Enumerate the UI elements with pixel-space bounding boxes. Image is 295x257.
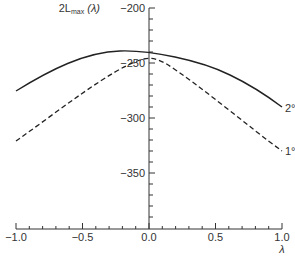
x-tick-label: 0.5	[208, 231, 223, 243]
chart: −1.0 −0.5 0.0 0.5 1.0 λ −200 −250 −300 −…	[0, 0, 295, 257]
series-1-label: 1°	[285, 145, 295, 157]
y-tick-label: −200	[120, 2, 145, 14]
x-tick-label: −0.5	[72, 231, 94, 243]
series-2-label: 2°	[285, 102, 295, 114]
x-tick-label: 0.0	[141, 231, 156, 243]
x-tick-label: 1.0	[274, 231, 289, 243]
x-axis-title: λ	[278, 243, 284, 255]
y-axis-title: 2Lmax (λ)	[59, 2, 101, 15]
y-ticks	[149, 8, 155, 217]
y-tick-label: −300	[120, 112, 145, 124]
y-tick-label: −350	[120, 167, 145, 179]
x-tick-label: −1.0	[5, 231, 27, 243]
